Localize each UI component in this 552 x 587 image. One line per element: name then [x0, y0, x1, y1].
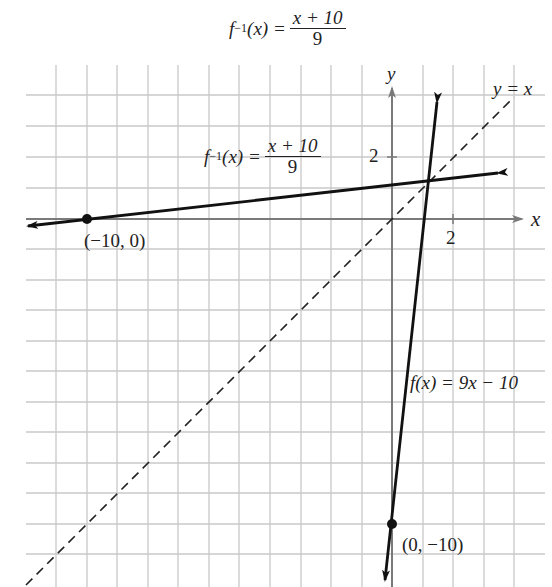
x-tick-label: 2: [446, 227, 456, 249]
inverse-numerator: x + 10: [265, 136, 321, 157]
inverse-arg: (x) =: [222, 146, 261, 168]
point-inverse-intercept: [82, 214, 92, 224]
plot-area: [0, 0, 552, 587]
inverse-fraction: x + 10 9: [265, 136, 321, 177]
inverse-function-label: f−1(x) = x + 10 9: [204, 136, 321, 177]
point-inverse-label: (−10, 0): [84, 230, 145, 252]
inverse-sup: −1: [209, 149, 222, 164]
function-label: f(x) = 9x − 10: [410, 372, 518, 394]
point-function-label: (0, −10): [402, 534, 463, 556]
y-axis-label: y: [387, 63, 395, 85]
inverse-denominator: 9: [265, 157, 321, 177]
y-tick-label: 2: [369, 145, 379, 167]
identity-label: y = x: [493, 78, 532, 100]
point-function-intercept: [387, 519, 397, 529]
x-axis-label: x: [531, 207, 540, 232]
